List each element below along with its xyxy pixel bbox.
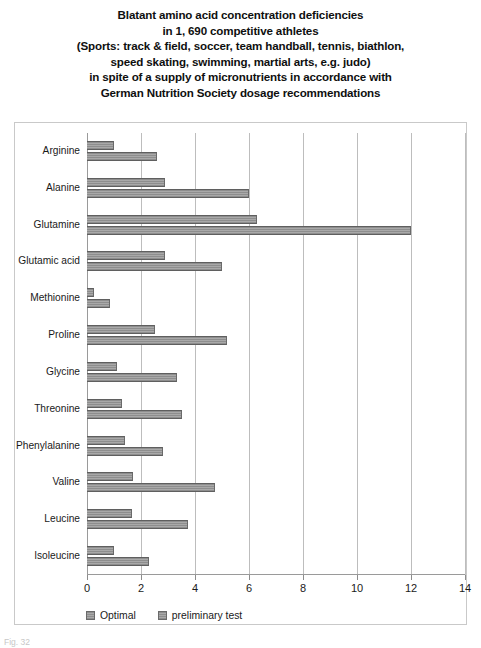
category-label: Isoleucine: [34, 550, 80, 562]
title-line-4: speed skating, swimming, martial arts, e…: [0, 54, 481, 70]
bar-optimal: [87, 141, 114, 150]
category-label: Methionine: [30, 292, 80, 304]
bar-preliminary-test: [87, 557, 149, 566]
x-tick-mark-14: [465, 575, 466, 580]
bar-optimal: [87, 251, 165, 260]
x-tick-mark-2: [141, 575, 142, 580]
chart-legend: Optimal preliminary test: [86, 610, 242, 621]
title-line-5: in spite of a supply of micronutrients i…: [0, 69, 481, 85]
legend-item-optimal: Optimal: [86, 610, 136, 621]
category-label: Proline: [48, 329, 80, 341]
x-tick-mark-0: [87, 575, 88, 580]
bar-preliminary-test: [87, 520, 188, 529]
chart-title: Blatant amino acid concentration deficie…: [0, 7, 481, 100]
bar-group: Leucine: [87, 509, 465, 530]
legend-label-preliminary-test: preliminary test: [172, 610, 242, 621]
x-tick-label-14: 14: [459, 582, 471, 594]
x-tick-mark-10: [357, 575, 358, 580]
bar-group: Glycine: [87, 362, 465, 383]
bar-preliminary-test: [87, 447, 163, 456]
x-tick-mark-4: [195, 575, 196, 580]
x-tick-label-6: 6: [246, 582, 252, 594]
x-axis-line: [87, 574, 465, 575]
x-tick-label-8: 8: [300, 582, 306, 594]
bar-preliminary-test: [87, 226, 411, 235]
legend-label-optimal: Optimal: [100, 610, 136, 621]
bar-optimal: [87, 472, 133, 481]
bar-group: Alanine: [87, 178, 465, 199]
bar-optimal: [87, 178, 165, 187]
category-label: Glutamic acid: [18, 255, 80, 267]
category-label: Arginine: [43, 145, 80, 157]
category-label: Glutamine: [34, 219, 80, 231]
category-label: Leucine: [44, 513, 80, 525]
bar-optimal: [87, 546, 114, 555]
bar-group: Valine: [87, 472, 465, 493]
x-tick-label-12: 12: [405, 582, 417, 594]
bar-group: Methionine: [87, 288, 465, 309]
title-line-3: (Sports: track & field, soccer, team han…: [0, 38, 481, 54]
legend-swatch-preliminary-test: [158, 611, 167, 620]
bar-preliminary-test: [87, 410, 182, 419]
category-label: Threonine: [34, 403, 80, 415]
category-label: Phenylalanine: [16, 440, 80, 452]
category-label: Alanine: [46, 182, 80, 194]
x-tick-label-4: 4: [192, 582, 198, 594]
bar-optimal: [87, 288, 94, 297]
bar-group: Arginine: [87, 141, 465, 162]
bar-optimal: [87, 509, 132, 518]
x-tick-mark-12: [411, 575, 412, 580]
title-line-1: Blatant amino acid concentration deficie…: [0, 7, 481, 23]
bar-preliminary-test: [87, 373, 177, 382]
bar-optimal: [87, 325, 155, 334]
x-tick-label-2: 2: [138, 582, 144, 594]
bar-preliminary-test: [87, 299, 110, 308]
bar-group: Threonine: [87, 399, 465, 420]
bar-optimal: [87, 399, 122, 408]
legend-swatch-optimal: [86, 611, 95, 620]
figure-caption: Fig. 32: [4, 637, 30, 648]
bar-group: Glutamic acid: [87, 251, 465, 272]
figure-container: Blatant amino acid concentration deficie…: [0, 0, 481, 648]
bar-optimal: [87, 362, 117, 371]
plot-frame: ArginineAlanineGlutamineGlutamic acidMet…: [14, 122, 467, 625]
bar-group: Glutamine: [87, 215, 465, 236]
x-tick-label-10: 10: [351, 582, 363, 594]
plot-area: ArginineAlanineGlutamineGlutamic acidMet…: [87, 133, 465, 575]
x-tick-mark-6: [249, 575, 250, 580]
category-label: Valine: [52, 476, 80, 488]
bar-optimal: [87, 436, 125, 445]
bar-preliminary-test: [87, 189, 249, 198]
gridline-14: [465, 133, 466, 575]
bar-preliminary-test: [87, 336, 227, 345]
legend-item-preliminary-test: preliminary test: [158, 610, 242, 621]
x-tick-label-0: 0: [84, 582, 90, 594]
bar-preliminary-test: [87, 483, 215, 492]
title-line-6: German Nutrition Society dosage recommen…: [0, 85, 481, 101]
category-label: Glycine: [46, 366, 80, 378]
bar-optimal: [87, 215, 257, 224]
bar-group: Proline: [87, 325, 465, 346]
bar-group: Isoleucine: [87, 546, 465, 567]
title-line-2: in 1, 690 competitive athletes: [0, 23, 481, 39]
bar-group: Phenylalanine: [87, 436, 465, 457]
x-tick-mark-8: [303, 575, 304, 580]
bar-preliminary-test: [87, 152, 157, 161]
bar-preliminary-test: [87, 262, 222, 271]
